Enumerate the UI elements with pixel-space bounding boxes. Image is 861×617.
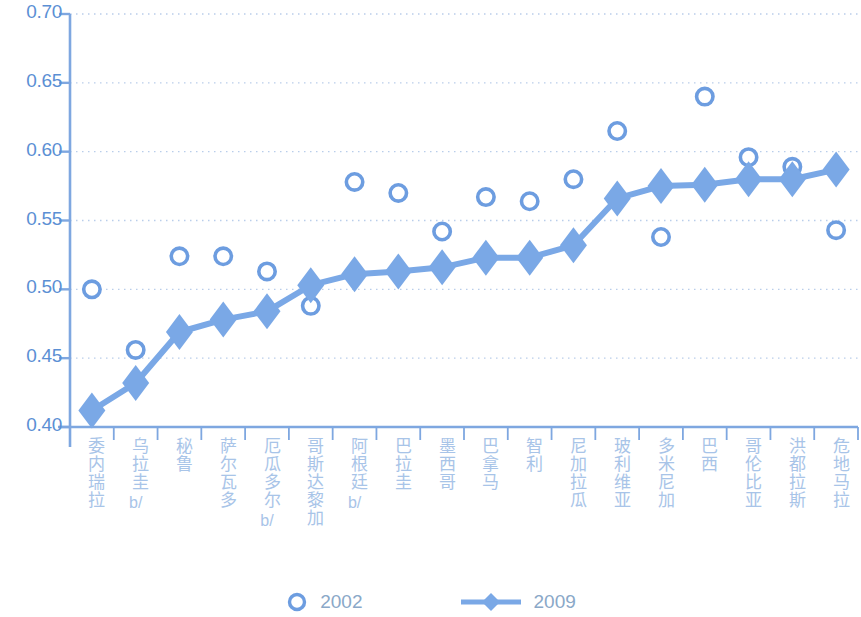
x-axis-category-10: 巴拿马 [466,437,506,491]
x-axis-category-15: 巴西 [685,437,725,473]
x-axis-tick-label: 哥斯达黎加 [298,437,324,527]
y-axis-tick-label: 0.70 [0,1,62,23]
x-axis-category-13: 玻利维亚 [597,437,637,509]
x-axis-category-4: 萨尔瓦多 [203,437,243,509]
data-point-2002 [521,193,537,209]
x-axis-tick-label: 巴拉圭 [385,437,411,491]
legend-label-2002: 2002 [320,591,362,613]
series-2009-markers [78,152,849,429]
y-axis-tick-label: 0.65 [0,70,62,92]
data-point-2002 [609,123,625,139]
y-axis-tick-label: 0.40 [0,414,62,436]
x-axis-tick-label: 巴拿马 [473,437,499,491]
x-axis-tick-label: 秘鲁 [166,437,192,473]
y-axis-tick-label: 0.50 [0,276,62,298]
chart-container: 0.700.650.600.550.500.450.40 委内瑞拉乌拉圭b/秘鲁… [0,0,861,617]
data-point-2009 [210,302,237,338]
data-point-2009 [341,256,368,292]
x-axis-category-1: 委内瑞拉 [72,437,112,509]
data-point-2009 [735,161,762,197]
x-axis-tick-label: 玻利维亚 [604,437,630,509]
x-axis-category-9: 墨西哥 [422,437,462,491]
x-axis-footnote-marker: b/ [260,512,273,530]
data-point-2009 [823,152,850,188]
data-point-2002 [697,88,713,104]
data-point-2002 [434,223,450,239]
data-point-2009 [429,249,456,285]
x-axis-category-14: 多米尼加 [641,437,681,509]
data-point-2002 [171,248,187,264]
series-2002-markers [84,88,845,358]
y-axis-tick-label: 0.55 [0,208,62,230]
filled-diamond-icon [459,590,523,614]
x-axis-tick-label: 萨尔瓦多 [210,437,236,509]
data-point-2009 [516,240,543,276]
data-point-2002 [653,229,669,245]
x-axis-tick-label: 尼加拉瓜 [560,437,586,509]
x-axis-tick-label: 乌拉圭 [123,437,149,491]
x-axis-category-3: 秘鲁 [159,437,199,473]
data-point-2002 [346,174,362,190]
data-point-2002 [390,185,406,201]
x-axis-tick-label: 墨西哥 [429,437,455,491]
x-axis-tick-label: 智利 [517,437,543,473]
x-axis-footnote-marker: b/ [129,494,142,512]
x-axis-tick-label: 阿根廷 [342,437,368,491]
data-point-2002 [84,281,100,297]
data-point-2009 [78,392,105,428]
x-axis-category-18: 危地马拉 [816,437,856,509]
x-axis-tick-label: 危地马拉 [823,437,849,509]
x-axis-tick-label: 洪都拉斯 [779,437,805,509]
data-point-2009 [297,267,324,303]
x-axis-category-5: 厄瓜多尔b/ [247,437,287,530]
chart-legend: 2002 2009 [0,586,861,617]
x-axis-category-7: 阿根廷b/ [335,437,375,512]
legend-label-2009: 2009 [534,591,576,613]
data-point-2009 [648,168,675,204]
x-axis-category-12: 尼加拉瓜 [553,437,593,509]
legend-item-2009[interactable]: 2009 [459,590,576,614]
data-point-2002 [215,248,231,264]
axes-group [58,14,858,447]
gridlines-group [70,14,858,427]
data-point-2009 [691,167,718,203]
data-point-2009 [385,253,412,289]
x-axis-category-11: 智利 [510,437,550,473]
data-point-2002 [259,263,275,279]
data-point-2009 [472,240,499,276]
x-axis-category-8: 巴拉圭 [378,437,418,491]
x-axis-category-2: 乌拉圭b/ [116,437,156,512]
data-point-2002 [127,342,143,358]
y-axis-tick-label: 0.45 [0,345,62,367]
open-circle-icon [285,590,309,614]
data-point-2009 [254,293,281,329]
data-point-2002 [478,189,494,205]
x-axis-tick-label: 多米尼加 [648,437,674,509]
x-axis-tick-label: 哥伦比亚 [736,437,762,509]
x-axis-footnote-marker: b/ [348,494,361,512]
x-axis-labels: 委内瑞拉乌拉圭b/秘鲁萨尔瓦多厄瓜多尔b/哥斯达黎加阿根廷b/巴拉圭墨西哥巴拿马… [0,437,861,577]
data-point-2002 [565,171,581,187]
x-axis-category-6: 哥斯达黎加 [291,437,331,527]
x-axis-tick-label: 厄瓜多尔 [254,437,280,509]
x-axis-category-17: 洪都拉斯 [772,437,812,509]
legend-item-2002[interactable]: 2002 [285,590,362,614]
data-point-2002 [828,222,844,238]
x-axis-tick-label: 委内瑞拉 [79,437,105,509]
x-axis-tick-label: 巴西 [692,437,718,473]
y-axis-tick-label: 0.60 [0,139,62,161]
x-axis-category-16: 哥伦比亚 [729,437,769,509]
